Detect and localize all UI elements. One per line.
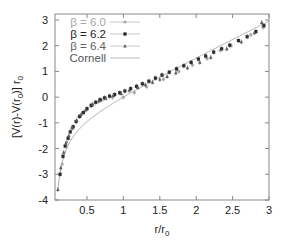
legend-label: β = 6.2 [70,28,106,40]
y-axis-label: [V(r)-V(r0)] r0 [10,75,25,138]
x-axis-ticks: 0.511.522.53 [79,14,272,216]
legend-label: Cornell [70,52,106,64]
potential-chart: 0.511.522.53 -4-3-2-10123 β = 6.0β = 6.2… [0,0,285,242]
x-tick-label: 1.5 [152,204,167,216]
legend-label: β = 6.0 [70,16,106,28]
x-axis-label: r/r0 [155,223,170,238]
x-tick-label: 2.5 [225,204,240,216]
x-tick-label: 3 [266,204,272,216]
x-tick-label: 0.5 [79,204,94,216]
y-tick-label: 0 [42,91,48,103]
y-tick-label: -3 [38,168,48,180]
y-tick-label: 2 [42,40,48,52]
legend-marker-circle-icon [124,21,127,24]
legend: β = 6.0β = 6.2β = 6.4Cornell [70,16,140,64]
y-tick-label: -4 [38,194,48,206]
x-tick-label: 1 [120,204,126,216]
legend-label: β = 6.4 [70,40,106,52]
y-tick-label: 3 [42,14,48,26]
y-tick-label: -1 [38,117,48,129]
y-tick-label: -2 [38,143,48,155]
x-tick-label: 2 [193,204,199,216]
y-tick-label: 1 [42,65,48,77]
legend-marker-square-icon [123,32,126,35]
